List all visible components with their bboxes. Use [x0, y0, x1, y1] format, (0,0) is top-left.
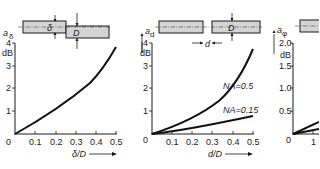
- svg-text:2.0: 2.0: [279, 38, 292, 48]
- y-axis-subscript: φ: [282, 29, 287, 38]
- y-axis-subscript: d: [150, 30, 154, 39]
- legend-na-0-15: NA=0.15: [223, 105, 259, 115]
- svg-text:0: 0: [6, 137, 11, 147]
- svg-text:1.5: 1.5: [279, 61, 292, 71]
- chart-attenuation-angular: a φ dB 2.0 1.5 1.0 0.5 0 1: [273, 20, 320, 147]
- inset-label-D: D: [73, 28, 80, 38]
- svg-text:0.5: 0.5: [279, 106, 292, 116]
- svg-text:0.1: 0.1: [29, 137, 42, 147]
- svg-text:2: 2: [143, 83, 148, 93]
- svg-text:1: 1: [143, 106, 148, 116]
- svg-text:0.5: 0.5: [247, 137, 260, 147]
- svg-text:0: 0: [286, 135, 291, 145]
- svg-text:1: 1: [6, 106, 11, 116]
- svg-text:1: 1: [311, 137, 316, 147]
- inset-label-d: d: [205, 39, 211, 49]
- svg-text:4: 4: [6, 38, 11, 48]
- svg-text:3: 3: [143, 61, 148, 71]
- y-axis-unit: dB: [280, 50, 291, 60]
- y-axis-unit: dB: [2, 48, 13, 58]
- y-axis-symbol: a: [3, 28, 8, 38]
- y-axis-unit: dB: [140, 48, 151, 58]
- chart-attenuation-lateral-offset: δ D a δ dB 4 3 2 1 0 0.1: [2, 13, 123, 159]
- x-arrow-icon: [248, 152, 253, 156]
- svg-text:0.2: 0.2: [50, 137, 63, 147]
- svg-text:3: 3: [6, 61, 11, 71]
- x-arrow-icon: [112, 152, 117, 156]
- svg-text:0: 0: [143, 135, 148, 145]
- svg-text:0.5: 0.5: [110, 137, 123, 147]
- fiber-offset-inset: δ D: [18, 13, 110, 49]
- curve-na-0-5: [152, 49, 253, 134]
- svg-text:2: 2: [6, 83, 11, 93]
- svg-text:0.3: 0.3: [206, 137, 219, 147]
- chart-attenuation-core-diameter: d D a d dB 4 3 2 1 0 0.1: [140, 13, 262, 159]
- svg-text:0.1: 0.1: [166, 137, 179, 147]
- svg-text:0.4: 0.4: [90, 137, 103, 147]
- inset-label-D: D: [228, 23, 235, 33]
- curve-na-0-15: [152, 116, 253, 134]
- x-axis-label: d/D: [208, 149, 223, 159]
- svg-text:0.3: 0.3: [70, 137, 83, 147]
- svg-text:4: 4: [143, 38, 148, 48]
- legend-na-0-5: NA=0.5: [223, 81, 254, 91]
- fiber-angle-inset: [295, 20, 319, 32]
- figure-canvas: δ D a δ dB 4 3 2 1 0 0.1: [0, 0, 319, 169]
- y-arrow-icon: [273, 30, 276, 33]
- svg-text:1.0: 1.0: [279, 83, 292, 93]
- x-axis-label: δ/D: [72, 149, 87, 159]
- svg-text:0.2: 0.2: [186, 137, 199, 147]
- curve-a-delta: [15, 47, 116, 134]
- x-ticks: 0 0.1 0.2 0.3 0.4 0.5: [6, 131, 123, 147]
- fiber-gap-inset: d D: [155, 13, 262, 49]
- svg-text:0.4: 0.4: [227, 137, 240, 147]
